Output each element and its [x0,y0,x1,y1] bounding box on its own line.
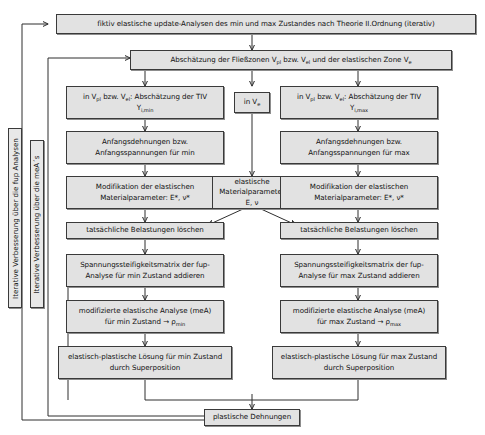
loop-label-inner: Iterative Verbesserung über die meA´s [30,140,44,308]
node-in-ve-text: in Ve [238,97,266,107]
node-mea-max[interactable]: modifizierte elastische Analyse (meA)für… [280,300,438,333]
node-zones[interactable]: Abschätzung der Fließzonen Vpl bzw. Vel … [130,50,452,70]
node-anfang-max[interactable]: Anfangsdehnungen bzw.Anfangsspannungen f… [280,131,438,164]
node-anfang-min[interactable]: Anfangsdehnungen bzw.Anfangsspannungen f… [66,131,224,164]
loop-label-outer-text: Iterative Verbesserung über die fup Anal… [11,138,20,299]
node-steifigkeit-max[interactable]: Spannungssteifigkeitsmatrix der fup-Anal… [280,254,438,287]
node-modif-min-text: Modifikation der elastischenMaterialpara… [70,182,220,203]
node-modif-max[interactable]: Modifikation der elastischenMaterialpara… [280,176,438,209]
node-header-text: fiktiv elastische update-Analysen des mi… [60,19,472,29]
node-loeschen-min[interactable]: tatsächliche Belastungen löschen [66,222,224,239]
node-modif-max-text: Modifikation der elastischenMaterialpara… [284,182,434,203]
loop-label-inner-text: Iterative Verbesserung über die meA´s [33,155,42,293]
node-elast-mat-text: elastischeMaterialparameter E, ν [216,177,288,208]
node-loesung-max[interactable]: elastisch-plastische Lösung für max Zust… [272,346,446,379]
node-tiv-min-text: in Vpl bzw. Vel: Abschätzung der TIVYi,m… [70,92,220,113]
node-tiv-min[interactable]: in Vpl bzw. Vel: Abschätzung der TIVYi,m… [66,86,224,119]
node-loeschen-min-text: tatsächliche Belastungen löschen [70,225,220,235]
node-steifigkeit-max-text: Spannungssteifigkeitsmatrix der fup-Anal… [284,260,434,281]
node-mea-max-text: modifizierte elastische Analyse (meA)für… [284,306,434,327]
node-loeschen-max[interactable]: tatsächliche Belastungen löschen [280,222,438,239]
node-header[interactable]: fiktiv elastische update-Analysen des mi… [56,14,476,34]
node-steifigkeit-min-text: Spannungssteifigkeitsmatrix der fup-Anal… [70,260,220,281]
node-modif-min[interactable]: Modifikation der elastischenMaterialpara… [66,176,224,209]
node-in-ve[interactable]: in Ve [234,92,270,113]
node-loesung-min-text: elastisch-plastische Lösung für min Zust… [62,352,228,373]
node-tiv-max[interactable]: in Vpl bzw. Vel: Abschätzung der TIVYi,m… [280,86,438,119]
node-tiv-max-text: in Vpl bzw. Vel: Abschätzung der TIVYi,m… [284,92,434,113]
loop-label-outer: Iterative Verbesserung über die fup Anal… [8,128,22,308]
node-loeschen-max-text: tatsächliche Belastungen löschen [284,225,434,235]
node-mea-min[interactable]: modifizierte elastische Analyse (meA)für… [66,300,224,333]
node-loesung-min[interactable]: elastisch-plastische Lösung für min Zust… [58,346,232,379]
node-zones-text: Abschätzung der Fließzonen Vpl bzw. Vel … [134,55,448,65]
node-anfang-min-text: Anfangsdehnungen bzw.Anfangsspannungen f… [70,137,220,158]
node-steifigkeit-min[interactable]: Spannungssteifigkeitsmatrix der fup-Anal… [66,254,224,287]
node-anfang-max-text: Anfangsdehnungen bzw.Anfangsspannungen f… [284,137,434,158]
node-mea-min-text: modifizierte elastische Analyse (meA)für… [70,306,220,327]
node-result-text: plastische Dehnungen [208,412,296,422]
flowchart-diagram: Iterative Verbesserung über die fup Anal… [0,0,485,435]
node-loesung-max-text: elastisch-plastische Lösung für max Zust… [276,352,442,373]
node-result[interactable]: plastische Dehnungen [204,409,300,426]
